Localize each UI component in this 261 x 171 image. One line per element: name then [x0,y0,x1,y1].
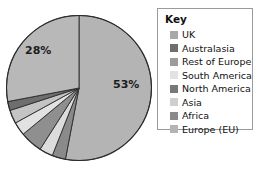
legend-swatch-icon [170,58,178,66]
legend-box: Key UKAustralasiaRest of EuropeSouth Ame… [157,8,253,130]
legend-item-label: Africa [182,110,209,121]
pie-chart-figure: 28% 53% Key UKAustralasiaRest of EuropeS… [0,0,261,171]
legend-swatch-icon [170,98,178,106]
legend-item-label: North America [182,83,251,94]
legend-item-label: Europe (EU) [182,124,239,135]
pie-slice [6,15,79,101]
pie-chart: 28% 53% [0,0,158,171]
pie-label-uk: 53% [113,78,139,91]
legend-swatch-icon [170,71,178,79]
legend-item-label: Rest of Europe [182,56,251,67]
legend-swatch-icon [170,112,178,120]
legend-item: Rest of Europe [170,55,252,68]
legend-item-label: UK [182,29,195,40]
legend-item: UK [170,28,252,41]
legend-item-label: Asia [182,97,202,108]
legend-item-label: South America [182,70,252,81]
legend-item: Asia [170,96,252,109]
pie-label-europe-eu: 28% [25,44,51,57]
legend-swatch-icon [170,44,178,52]
legend-list: UKAustralasiaRest of EuropeSouth America… [165,28,252,136]
legend-item: South America [170,69,252,82]
legend-swatch-icon [170,125,178,133]
legend-title: Key [165,13,252,25]
legend-swatch-icon [170,31,178,39]
legend-swatch-icon [170,85,178,93]
legend-item: Australasia [170,42,252,55]
legend-item: Europe (EU) [170,123,252,136]
legend-item-label: Australasia [182,43,235,54]
legend-item: North America [170,82,252,95]
legend-item: Africa [170,109,252,122]
